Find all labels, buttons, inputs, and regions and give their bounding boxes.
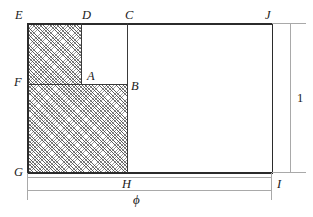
dimension-extension-top (272, 23, 306, 24)
divider-line-FB (27, 84, 128, 85)
rectangle-left-edge-EG (27, 23, 29, 174)
small-hatched-square (27, 23, 82, 84)
dimension-label-width: ϕ (133, 193, 140, 206)
divider-line-CH (127, 23, 128, 173)
divider-line-DA (81, 23, 82, 84)
golden-ratio-diagram: E D C J F A B G H I 1 ϕ (0, 0, 313, 217)
rectangle-top-edge-EJ (27, 23, 273, 25)
dimension-line-width (27, 190, 272, 191)
vertex-label-G: G (14, 166, 23, 179)
rectangle-bottom-edge-GI (27, 172, 273, 174)
vertex-label-E: E (15, 9, 23, 22)
large-hatched-square (27, 84, 128, 173)
dimension-line-H-baseline (27, 177, 272, 178)
vertex-label-A: A (87, 70, 95, 83)
vertex-label-D: D (82, 9, 91, 22)
dimension-extension-bottom (272, 172, 306, 173)
vertex-label-I: I (277, 178, 281, 191)
vertex-label-C: C (125, 9, 133, 22)
dimension-label-height: 1 (297, 92, 303, 105)
vertex-label-J: J (265, 9, 271, 22)
rectangle-right-edge-JI (272, 23, 274, 174)
dimension-line-height (290, 23, 291, 173)
vertex-label-B: B (131, 80, 139, 93)
vertex-label-H: H (122, 178, 131, 191)
vertex-label-F: F (14, 76, 22, 89)
